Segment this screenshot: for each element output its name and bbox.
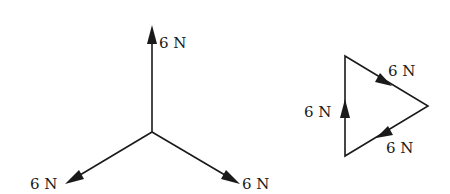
force-diagram-svg: 6 N 6 N 6 N 6 N 6 N 6 N — [0, 0, 450, 194]
triangle-label-top-side: 6 N — [388, 62, 415, 80]
arrowhead-left-side-icon — [340, 99, 350, 118]
force-arrow-down-right: 6 N — [152, 132, 269, 193]
force-label-down-right: 6 N — [242, 175, 269, 193]
concurrent-forces: 6 N 6 N 6 N — [30, 25, 269, 193]
arrowhead-down-left-icon — [65, 170, 84, 184]
arrowhead-up-icon — [147, 25, 157, 44]
force-diagram-canvas: 6 N 6 N 6 N 6 N 6 N 6 N — [0, 0, 450, 194]
triangle-label-lower-side: 6 N — [386, 139, 413, 157]
force-arrow-down-left: 6 N — [30, 132, 152, 193]
triangle-of-forces: 6 N 6 N 6 N — [304, 56, 428, 157]
force-label-up: 6 N — [159, 34, 186, 52]
triangle-label-left-side: 6 N — [304, 103, 331, 121]
arrowhead-down-right-icon — [221, 170, 240, 184]
force-arrow-up: 6 N — [147, 25, 186, 132]
force-label-down-left: 6 N — [30, 175, 57, 193]
